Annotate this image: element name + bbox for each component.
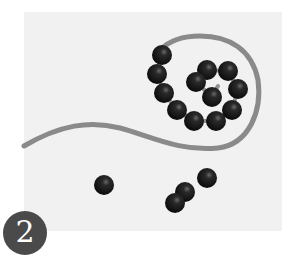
histone-bead [184, 111, 204, 131]
histone-bead [228, 79, 248, 99]
histone-bead [186, 72, 206, 92]
free-bead [197, 168, 217, 188]
free-bead [94, 175, 114, 195]
dna-strand [24, 36, 259, 149]
histone-bead [202, 87, 222, 107]
histone-bead [167, 100, 187, 120]
histone-bead [222, 100, 242, 120]
free-bead [165, 193, 185, 213]
panel-number-badge: 2 [3, 211, 47, 255]
free-beads [94, 168, 217, 213]
histone-cluster [147, 45, 248, 131]
panel-number: 2 [3, 214, 47, 250]
histone-bead [152, 45, 172, 65]
histone-bead [154, 83, 174, 103]
histone-bead [218, 61, 238, 81]
histone-bead [147, 64, 167, 84]
